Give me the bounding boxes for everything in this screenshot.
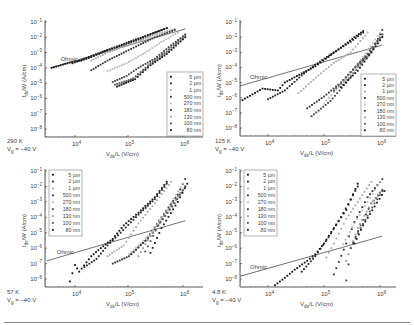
legend-entry: 5 µm <box>263 172 275 178</box>
y-tick-label: 10−7 <box>30 259 42 267</box>
legend-entry: 80 nm <box>261 227 275 233</box>
y-tick-label: 10−8 <box>225 275 237 283</box>
legend-entry: 2 µm <box>189 80 201 86</box>
legend-entry: 2 µm <box>382 82 394 88</box>
plot-panel-1: 10−110−210−310−410−510−610−710−810410510… <box>7 18 203 159</box>
legend-entry: 270 nm <box>377 101 394 107</box>
y-tick-label: 10−6 <box>225 93 237 101</box>
x-axis-label: Vds/L (V/cm) <box>300 150 333 158</box>
legend-entry: 130 nm <box>377 114 394 120</box>
legend-entry: 270 nm <box>184 100 201 106</box>
legend-entry: 500 nm <box>258 192 275 198</box>
series-500nm <box>112 178 186 264</box>
figure: 10−110−210−310−410−510−610−710−810410510… <box>0 0 414 325</box>
y-tick-label: 10−4 <box>225 213 237 221</box>
y-tick-label: 10−8 <box>30 275 42 283</box>
legend-entry: 130 nm <box>184 114 201 120</box>
series-130nm <box>138 186 187 258</box>
y-tick-label: 10−3 <box>30 197 42 205</box>
temperature-label: 57 K <box>7 289 19 295</box>
y-tick-label: 10−8 <box>30 125 42 133</box>
y-tick-label: 10−7 <box>225 259 237 267</box>
y-tick-label: 10−6 <box>30 94 42 102</box>
y-tick-label: 10−4 <box>30 213 42 221</box>
y-tick-label: 10−2 <box>30 182 42 190</box>
series-270nm <box>128 183 184 255</box>
series-130nm <box>345 190 383 262</box>
y-tick-label: 10−5 <box>30 79 42 87</box>
legend-entry: 180 nm <box>63 206 80 212</box>
legend-entry: 1 µm <box>382 88 394 94</box>
legend-entry: 5 µm <box>68 172 80 178</box>
legend-entry: 1 µm <box>189 87 201 93</box>
x-axis-label: Vds/L (V/cm) <box>300 301 333 309</box>
gate-voltage-label: Vg = −40 V <box>7 297 36 305</box>
y-tick-label: 10−3 <box>225 197 237 205</box>
legend-entry: 500 nm <box>184 94 201 100</box>
legend-entry: 130 nm <box>63 213 80 219</box>
series-2m <box>84 183 168 268</box>
bottom-rule <box>4 322 410 323</box>
x-tick-label: 105 <box>125 290 135 298</box>
legend-entry: 270 nm <box>63 199 80 205</box>
legend: 5 µm2 µm1 µm500 nm270 nm180 nm130 nm100 … <box>361 74 396 136</box>
legend-entry: 180 nm <box>258 206 275 212</box>
x-tick-label: 104 <box>72 290 82 298</box>
gate-voltage-label: Vg = −40 V <box>7 146 36 154</box>
x-tick-label: 105 <box>321 290 331 298</box>
legend-entry: 2 µm <box>68 178 80 184</box>
y-tick-label: 10−5 <box>225 78 237 86</box>
y-tick-label: 10−4 <box>30 63 42 71</box>
y-tick-label: 10−1 <box>30 167 42 175</box>
legend-entry: 5 µm <box>382 76 394 82</box>
legend-entry: 1 µm <box>68 185 80 191</box>
x-tick-label: 104 <box>265 139 275 147</box>
plot-panel-4: 10−110−210−310−410−510−610−710−810410510… <box>212 167 396 309</box>
y-tick-label: 10−1 <box>225 167 237 175</box>
y-tick-label: 10−2 <box>30 33 42 41</box>
temperature-label: 290 K <box>7 138 23 144</box>
legend-entry: 180 nm <box>184 107 201 113</box>
y-axis-label: Ids/W (A/cm) <box>21 64 29 97</box>
legend: 5 µm2 µm1 µm500 nm270 nm180 nm130 nm100 … <box>244 170 277 236</box>
x-tick-label: 104 <box>72 140 82 148</box>
ohmic-label: Ohmic <box>250 264 267 270</box>
series-500nm <box>333 178 383 275</box>
x-tick-label: 106 <box>180 140 190 148</box>
y-tick-label: 10−7 <box>225 108 237 116</box>
x-tick-label: 106 <box>377 139 387 147</box>
temperature-label: 4.8 K <box>212 289 226 295</box>
legend-entry: 180 nm <box>377 108 394 114</box>
x-tick-label: 104 <box>265 290 275 298</box>
x-tick-label: 106 <box>377 290 387 298</box>
series-80nm <box>150 183 189 254</box>
plot-panel-3: 10−110−210−310−410−510−610−710−810410510… <box>7 167 203 309</box>
legend-entry: 130 nm <box>258 213 275 219</box>
x-tick-label: 105 <box>321 139 331 147</box>
legend-entry: 80 nm <box>187 127 201 133</box>
series-5m <box>242 30 364 101</box>
ohmic-label: Ohmic <box>250 74 267 80</box>
ohmic-label: Ohmic <box>60 56 77 62</box>
legend-entry: 100 nm <box>258 220 275 226</box>
legend-entry: 80 nm <box>380 127 394 133</box>
y-tick-label: 10−6 <box>30 244 42 252</box>
legend-entry: 1 µm <box>263 185 275 191</box>
legend-entry: 100 nm <box>63 220 80 226</box>
y-tick-label: 10−4 <box>225 63 237 71</box>
x-axis-label: Vds/L (V/cm) <box>106 301 139 309</box>
gate-voltage-label: Vg = −40 V <box>212 297 241 305</box>
y-tick-label: 10−5 <box>30 228 42 236</box>
ohmic-line <box>240 236 382 276</box>
legend-entry: 2 µm <box>263 178 275 184</box>
y-tick-label: 10−8 <box>225 124 237 132</box>
plot-panel-2: 10−110−210−310−410−510−610−710−810410510… <box>215 18 396 158</box>
y-tick-label: 10−2 <box>225 33 237 41</box>
legend-entry: 5 µm <box>189 74 201 80</box>
ohmic-label: Ohmic <box>57 249 74 255</box>
y-tick-label: 10−1 <box>225 18 237 26</box>
x-tick-label: 105 <box>125 140 135 148</box>
legend: 5 µm2 µm1 µm500 nm270 nm180 nm130 nm100 … <box>49 170 82 236</box>
y-tick-label: 10−3 <box>225 48 237 56</box>
x-tick-label: 106 <box>180 290 190 298</box>
